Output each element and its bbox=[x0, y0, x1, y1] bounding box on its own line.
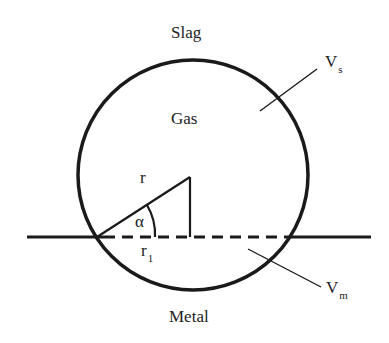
contact-radius-label: r1 bbox=[141, 242, 153, 259]
gas-bubble-circle bbox=[78, 60, 308, 290]
radius-label: r bbox=[140, 169, 146, 186]
slag-volume-label: Vs bbox=[325, 53, 343, 70]
metal-volume-label: Vm bbox=[326, 279, 348, 296]
gas-label: Gas bbox=[171, 110, 197, 127]
contact-radius-subscript: 1 bbox=[148, 252, 154, 264]
angle-label: α bbox=[135, 213, 144, 230]
metal-volume-base: V bbox=[326, 278, 338, 297]
slag-label: Slag bbox=[171, 24, 201, 41]
metal-volume-subscript: m bbox=[339, 289, 348, 301]
contact-radius-base: r bbox=[141, 241, 147, 260]
slag-volume-subscript: s bbox=[338, 63, 342, 75]
slag-volume-base: V bbox=[325, 52, 337, 71]
metal-label: Metal bbox=[169, 308, 209, 325]
angle-arc bbox=[147, 205, 155, 237]
